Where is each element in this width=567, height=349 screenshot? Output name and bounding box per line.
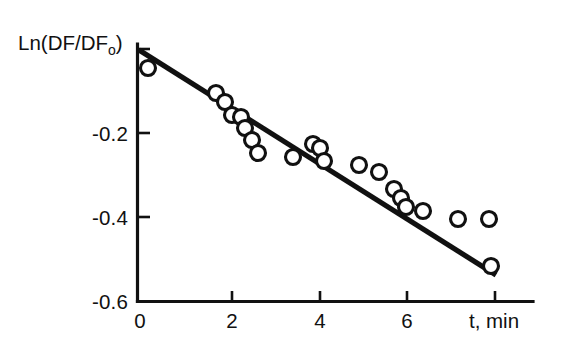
y-axis-title-close: ) xyxy=(116,31,123,54)
x-tick-label-0: 0 xyxy=(134,309,146,332)
data-point xyxy=(352,158,367,173)
x-tick-label-6: 6 xyxy=(401,309,413,332)
y-tick-label--0.4: -0.4 xyxy=(92,206,128,229)
x-tick-marks xyxy=(232,291,495,301)
data-point xyxy=(251,146,266,161)
data-point xyxy=(416,204,431,219)
data-point xyxy=(451,212,466,227)
scatter-plot-svg: Ln(DF/DFo) -0.2 -0.4 -0.6 0 2 4 6 t, min xyxy=(0,0,567,349)
y-axis-title-main: Ln(DF/DF xyxy=(18,31,108,54)
y-axis-title: Ln(DF/DFo) xyxy=(18,31,123,58)
data-point xyxy=(372,165,387,180)
data-point xyxy=(399,200,414,215)
y-axis-title-subscript: o xyxy=(108,42,116,58)
chart-figure: Ln(DF/DFo) -0.2 -0.4 -0.6 0 2 4 6 t, min xyxy=(0,0,567,349)
data-point xyxy=(482,212,497,227)
x-tick-label-2: 2 xyxy=(226,309,238,332)
data-point xyxy=(484,259,499,274)
x-tick-label-4: 4 xyxy=(314,309,326,332)
y-tick-label--0.2: -0.2 xyxy=(92,122,128,145)
x-axis-title: t, min xyxy=(469,309,519,332)
data-point xyxy=(317,154,332,169)
data-point xyxy=(141,61,156,76)
data-point xyxy=(286,150,301,165)
y-tick-label--0.6: -0.6 xyxy=(92,290,128,313)
